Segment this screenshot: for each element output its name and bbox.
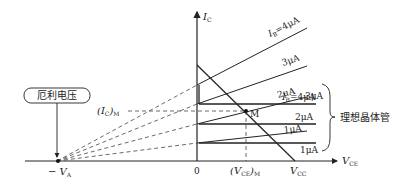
y-axis-label: IC	[202, 11, 212, 23]
early-voltage-point	[56, 159, 60, 163]
ideal-curve-3ua-label: 3μA	[305, 91, 324, 101]
ideal-transistor-label: 理想晶体管	[340, 111, 390, 123]
vcc-label: VCC	[290, 165, 307, 177]
q-point-label: M	[250, 109, 259, 119]
origin-label: 0	[194, 166, 200, 176]
ideal-transistor-brace	[322, 84, 335, 151]
early-voltage-callout-text: 厄利电压	[37, 89, 77, 101]
early-voltage-diagram: 厄利电压 理想晶体管 IC VCE 0 − VA M (IC)M (VCE)M …	[0, 0, 403, 185]
x-axis-label: VCE	[342, 155, 358, 167]
ic-m-label: (IC)M	[97, 105, 120, 117]
q-point-marker	[244, 109, 248, 113]
real-curve-1ua-label: 1μA	[283, 123, 303, 135]
real-curve-3ua-label: 3μA	[280, 52, 301, 68]
ideal-curve-2ua-label: 2μA	[295, 112, 314, 122]
vce-m-label: (VCE)M	[230, 165, 260, 177]
early-voltage-label: − VA	[48, 166, 72, 178]
ideal-curve-1ua-label: 1μA	[300, 145, 319, 155]
real-curve-4ua-label: IB=4μA	[265, 14, 301, 40]
